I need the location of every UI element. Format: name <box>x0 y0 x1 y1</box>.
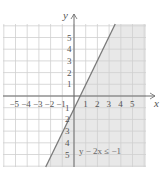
y-tick-label: 3 <box>67 56 72 66</box>
x-tick-label: 4 <box>118 99 123 109</box>
x-tick-label: −4 <box>21 99 31 109</box>
x-axis-label: x <box>153 97 159 109</box>
x-tick-label: 1 <box>83 99 88 109</box>
x-tick-label: −2 <box>45 99 55 109</box>
y-tick-label: 2 <box>67 68 72 78</box>
y-tick-label: 5 <box>65 150 70 160</box>
x-tick-label: 2 <box>95 99 100 109</box>
x-tick-label: 5 <box>130 99 135 109</box>
x-tick-label: −5 <box>10 99 20 109</box>
y-axis-label: y <box>62 9 68 21</box>
x-tick-label: −3 <box>33 99 43 109</box>
inequality-graph: x y −5−4−3−2−112345 5432112345 y − 2x ≤ … <box>0 0 166 178</box>
y-tick-label: 1 <box>65 103 70 113</box>
y-tick-label: 4 <box>67 44 72 54</box>
y-tick-label: 2 <box>65 114 70 124</box>
x-tick-label: 3 <box>107 99 112 109</box>
y-tick-label: 5 <box>67 33 72 43</box>
inequality-annotation: y − 2x ≤ −1 <box>79 146 121 156</box>
y-tick-label: 4 <box>65 138 70 148</box>
y-tick-label: 3 <box>65 126 70 136</box>
y-tick-label: 1 <box>67 79 72 89</box>
